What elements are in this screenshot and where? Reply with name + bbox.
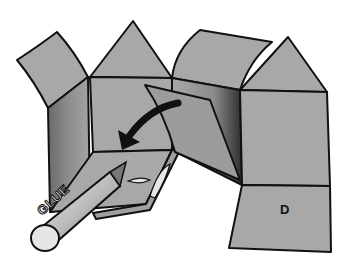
right-front-panel [240, 90, 330, 186]
bottom-panel-d [229, 185, 331, 252]
face-label-d: D [280, 202, 289, 217]
box-net-diagram: GLUE D [0, 0, 347, 268]
diagram-canvas [0, 0, 347, 268]
back-triangle-flap [90, 21, 172, 78]
